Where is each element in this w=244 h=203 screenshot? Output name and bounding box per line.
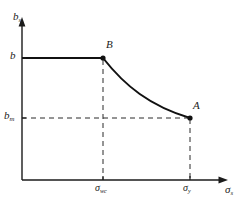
figure-container: bs σs b bm σwc σy B A [0, 0, 244, 203]
plot-canvas [0, 0, 244, 203]
data-point-A-marker [187, 115, 192, 120]
decay-curve [103, 58, 190, 118]
y-axis [19, 17, 26, 180]
x-tick-label-swc: σwc [95, 183, 107, 194]
data-point-B-marker [100, 55, 105, 60]
y-tick-label-bm: bm [4, 110, 14, 123]
data-point-label-A: A [193, 100, 200, 111]
x-tick-label-sy: σy [183, 183, 191, 194]
x-axis-label-subscript: s [230, 189, 233, 196]
data-point-label-B: B [106, 39, 113, 50]
y-tick-label-bm-subscript: m [10, 115, 15, 122]
y-tick-label-b-base: b [10, 49, 16, 61]
x-tick-label-sy-subscript: y [188, 187, 191, 194]
y-axis-label: bs [13, 11, 21, 24]
y-axis-label-subscript: s [19, 16, 22, 23]
x-tick-label-swc-subscript: wc [100, 187, 107, 194]
x-axis [22, 177, 228, 184]
y-tick-label-b: b [10, 50, 16, 63]
x-axis-label: σs [225, 184, 233, 197]
